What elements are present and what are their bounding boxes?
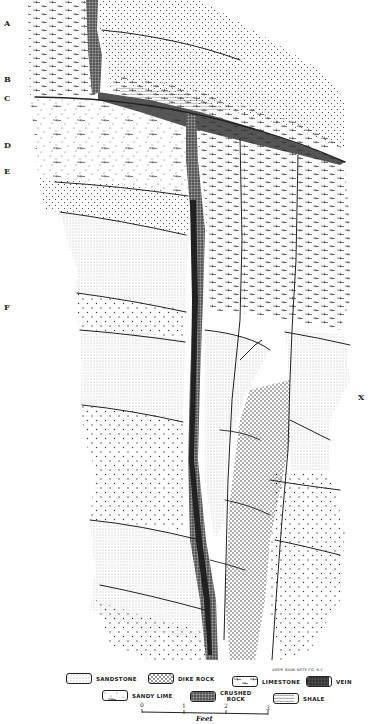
- side-label-c: C: [4, 93, 10, 103]
- geological-cross-section: A B C D E F X: [0, 0, 370, 724]
- side-label-a: A: [3, 18, 11, 28]
- scale-tick-2: 2: [224, 702, 228, 709]
- legend-item-sandstone: SANDSTONE: [66, 673, 137, 684]
- legend-label: CRUSHED ROCK: [220, 690, 252, 702]
- side-label-e: E: [4, 166, 10, 176]
- side-label-x: X: [358, 392, 365, 402]
- sandstone-right-lower: [285, 330, 350, 470]
- legend-label: SHALE: [303, 696, 325, 702]
- vein-swatch-icon: [306, 676, 332, 687]
- sandstone-layer-lower: [80, 405, 185, 530]
- sandstone-swatch-icon: [66, 673, 92, 684]
- side-label-f: F: [4, 302, 10, 312]
- legend-label: VEIN: [336, 679, 352, 685]
- legend-label: DIKE ROCK: [178, 676, 214, 682]
- scale-tick-1: 1: [182, 702, 186, 709]
- scale-tick-3: 3: [266, 704, 270, 711]
- crushed-rock-swatch-icon: [190, 691, 216, 702]
- legend-item-sandy-lime: SANDY LIME: [102, 690, 173, 701]
- legend-item-limestone: LIMESTONE: [232, 676, 300, 687]
- legend-label: LIMESTONE: [262, 679, 300, 685]
- side-label-b: B: [4, 74, 11, 84]
- legend-label-line2: ROCK: [227, 696, 245, 702]
- legend-item-vein: VEIN: [306, 676, 352, 687]
- scale-unit-label: Feet: [196, 714, 213, 723]
- side-label-d: D: [4, 140, 11, 150]
- limestone-swatch-icon: [232, 676, 258, 687]
- legend-item-crushed-rock: CRUSHED ROCK: [190, 690, 252, 702]
- scale-tick-0: 0: [140, 701, 144, 708]
- legend-label: SANDSTONE: [96, 676, 137, 682]
- shale-swatch-icon: [273, 693, 299, 704]
- legend-item-dike-rock: DIKE ROCK: [148, 673, 214, 684]
- dike-rock-swatch-icon: [148, 673, 174, 684]
- legend-item-shale: SHALE: [273, 693, 325, 704]
- legend-label: SANDY LIME: [132, 693, 173, 699]
- sandy-lime-swatch-icon: [102, 690, 128, 701]
- sandstone-right-base: [268, 470, 345, 660]
